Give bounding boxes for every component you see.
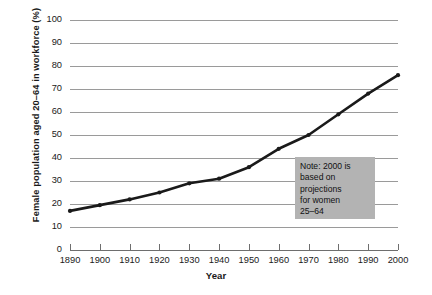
projection-note-line: Note: 2000 is [300,161,375,172]
y-tick-label: 100 [36,15,62,24]
x-tick-mark [398,244,399,250]
y-tick-label: 50 [36,130,62,139]
x-axis-title: Year [0,270,432,281]
projection-note-line: based on [300,172,375,183]
x-tick-mark [338,244,339,250]
data-point [247,165,251,169]
y-tick-label: 10 [36,222,62,231]
projection-note-line: for women [300,195,375,206]
projection-note-box: Note: 2000 isbased onprojectionsfor wome… [295,157,375,219]
y-tick-label: 80 [36,61,62,70]
x-tick-mark [368,244,369,250]
x-tick-mark [159,244,160,250]
data-point [277,147,281,151]
y-tick-label: 30 [36,176,62,185]
data-point [396,73,400,77]
x-tick-mark [309,244,310,250]
x-tick-mark [189,244,190,250]
x-tick-mark [70,244,71,250]
projection-note-line: 25–64 [300,206,375,217]
y-tick-label: 0 [36,245,62,254]
y-tick-label: 60 [36,107,62,116]
data-point [336,112,340,116]
y-tick-label: 40 [36,153,62,162]
data-point [98,203,102,207]
x-tick-mark [249,244,250,250]
data-point [157,190,161,194]
data-point [68,209,72,213]
x-tick-mark [219,244,220,250]
data-point [306,133,310,137]
y-tick-label: 70 [36,84,62,93]
y-tick-label: 20 [36,199,62,208]
x-tick-mark [130,244,131,250]
data-point [217,177,221,181]
x-tick-mark [279,244,280,250]
x-axis-line [70,250,398,251]
x-tick-label: 2000 [378,256,418,265]
projection-note-line: projections [300,184,375,195]
data-point [128,197,132,201]
x-tick-mark [100,244,101,250]
data-point [187,181,191,185]
chart-figure: Female population aged 20–64 in workforc… [0,0,432,295]
y-tick-label: 90 [36,38,62,47]
data-point [366,92,370,96]
